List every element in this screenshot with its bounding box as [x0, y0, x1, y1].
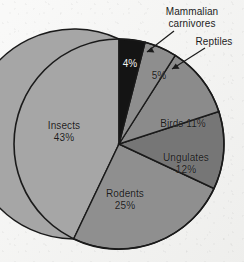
slice-label-birds-text: Birds 11% — [160, 118, 206, 129]
callout-label-mammalian-carnivores-line1: Mammalian — [144, 6, 240, 18]
slice-label-rodents: Rodents 25% — [89, 188, 161, 211]
slice-label-insects-pct: 43% — [28, 132, 100, 144]
slice-label-ungulates: Ungulates 12% — [146, 152, 226, 175]
slice-value-mammalian-carnivores: 4% — [117, 58, 143, 70]
callout-label-reptiles-name: Reptiles — [186, 36, 242, 48]
callout-label-mammalian-carnivores: Mammalian carnivores — [144, 6, 240, 29]
slice-label-rodents-pct: 25% — [89, 200, 161, 212]
callout-label-mammalian-carnivores-line2: carnivores — [144, 18, 240, 30]
slice-value-reptiles-pct: 5% — [146, 70, 172, 82]
slice-value-reptiles: 5% — [146, 70, 172, 82]
slice-label-insects: Insects 43% — [28, 120, 100, 143]
slice-label-rodents-name: Rodents — [89, 188, 161, 200]
pie-chart: Mammalian carnivores Reptiles 4% 5% Bird… — [0, 0, 244, 262]
slice-label-birds: Birds 11% — [143, 118, 223, 130]
slice-value-mammalian-carnivores-pct: 4% — [117, 58, 143, 70]
slice-label-ungulates-pct: 12% — [146, 164, 226, 176]
slice-label-insects-name: Insects — [28, 120, 100, 132]
slice-label-ungulates-name: Ungulates — [146, 152, 226, 164]
callout-label-reptiles: Reptiles — [186, 36, 242, 48]
